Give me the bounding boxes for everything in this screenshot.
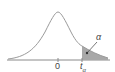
tail-area-label: α xyxy=(96,33,101,42)
density-curve xyxy=(8,12,108,59)
critical-value-label: tα xyxy=(80,62,86,72)
critical-value-subscript: α xyxy=(83,67,86,72)
center-label: 0 xyxy=(55,62,60,71)
tail-pointer-dot xyxy=(86,52,88,54)
